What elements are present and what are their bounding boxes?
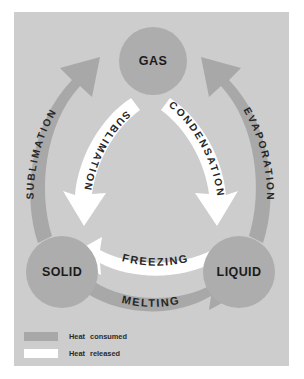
legend-row-heat-released: Heatreleased [24,347,174,360]
node-solid: SOLID [26,236,98,308]
arrow-label-melting: MELTING [121,293,181,309]
legend-term-heat-released: Heat [69,349,85,358]
phase-change-diagram: SUBLIMATION EVAPORATION MELTING SUBLIM [0,0,304,379]
arrow-condensation-shape [161,98,238,226]
legend-row-heat-consumed: Heatconsumed [24,330,174,343]
gas-label: GAS [139,54,167,68]
legend-term-heat-consumed: Heat [69,332,85,341]
legend-swatch-heat-released [24,349,58,358]
arrow-sublimation-inner: SUBLIMATION [63,98,140,226]
legend-text-heat-consumed: Heatconsumed [69,332,127,341]
legend-swatch-heat-consumed [24,332,58,341]
node-gas: GAS [119,27,187,95]
legend-qualifier-heat-released: released [90,349,120,358]
node-liquid: LIQUID [203,236,275,308]
legend: Heatconsumed Heatreleased [24,330,174,364]
legend-qualifier-heat-consumed: consumed [90,332,127,341]
diagram-canvas: SUBLIMATION EVAPORATION MELTING SUBLIM [0,0,304,379]
arrow-condensation-inner: CONDENSATION [161,98,238,226]
arrow-label-freezing: FREEZING [121,251,190,267]
legend-text-heat-released: Heatreleased [69,349,120,358]
solid-label: SOLID [42,265,82,279]
liquid-label: LIQUID [217,265,262,279]
